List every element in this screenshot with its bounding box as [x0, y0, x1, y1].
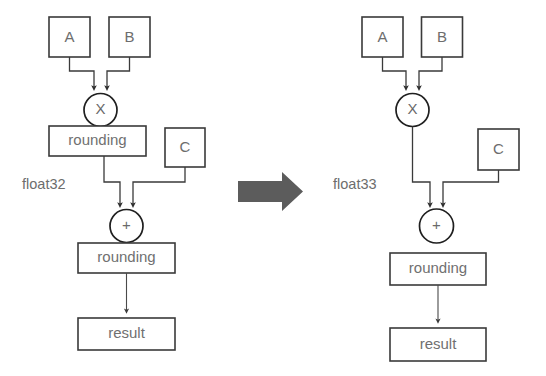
edge-b-to-mul-right	[419, 57, 442, 88]
node-b-right[interactable]: B	[422, 17, 463, 57]
op-add-label: +	[122, 216, 131, 233]
node-a-right[interactable]: A	[362, 17, 403, 57]
op-multiply-label: X	[95, 100, 105, 117]
left-diagram-group: A B X rounding C	[22, 17, 205, 350]
node-b-label: B	[124, 28, 134, 45]
op-add-right-label: +	[432, 216, 441, 233]
right-arrow-icon	[238, 172, 303, 211]
edge-c-to-add-right	[443, 170, 499, 205]
node-a-label: A	[64, 28, 74, 45]
diagram-canvas: A B X rounding C	[0, 0, 546, 376]
edge-a-to-mul-right	[383, 57, 407, 88]
node-c-label: C	[180, 138, 191, 155]
right-diagram-group: A B X C +	[333, 17, 519, 361]
edge-a-to-mul	[70, 57, 95, 88]
node-c-right[interactable]: C	[478, 129, 519, 170]
rounding-box-2-label: rounding	[97, 248, 155, 265]
edge-b-to-mul	[107, 57, 130, 88]
precision-label-right: float33	[333, 176, 377, 192]
precision-label-left: float32	[22, 176, 66, 192]
op-multiply-right[interactable]: X	[396, 94, 429, 127]
op-add[interactable]: +	[110, 210, 143, 243]
rounding-box-2[interactable]: rounding	[78, 243, 175, 273]
rounding-box-1-label: rounding	[68, 131, 126, 148]
node-a-right-label: A	[377, 28, 387, 45]
rounding-box-right-label: rounding	[409, 259, 467, 276]
transform-arrow	[238, 172, 303, 211]
node-b-right-label: B	[437, 28, 447, 45]
op-multiply-right-label: X	[407, 100, 417, 117]
result-box-label: result	[108, 324, 146, 341]
node-c[interactable]: C	[165, 128, 205, 167]
op-add-right[interactable]: +	[420, 209, 454, 243]
node-b[interactable]: B	[109, 17, 150, 57]
op-multiply[interactable]: X	[84, 94, 117, 127]
result-box-right-label: result	[420, 335, 458, 352]
dataflow-diagram-svg: A B X rounding C	[0, 0, 546, 376]
rounding-box-1[interactable]: rounding	[49, 126, 146, 156]
rounding-box-right[interactable]: rounding	[390, 253, 486, 285]
node-a[interactable]: A	[49, 17, 90, 57]
result-box[interactable]: result	[78, 318, 175, 350]
edge-round1-to-add	[104, 156, 120, 205]
edge-c-to-add	[133, 167, 185, 205]
edge-mul-to-add-right	[413, 127, 431, 206]
result-box-right[interactable]: result	[390, 328, 486, 361]
node-c-right-label: C	[493, 140, 504, 157]
